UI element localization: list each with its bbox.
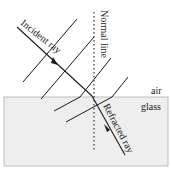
- normal-line-label: Normal line: [99, 10, 109, 58]
- incident-arrowhead: [51, 57, 58, 65]
- glass-label: glass: [141, 102, 161, 112]
- refraction-diagram: Incident ray Normal line Refracted ray a…: [0, 0, 171, 170]
- air-label: air: [151, 86, 162, 96]
